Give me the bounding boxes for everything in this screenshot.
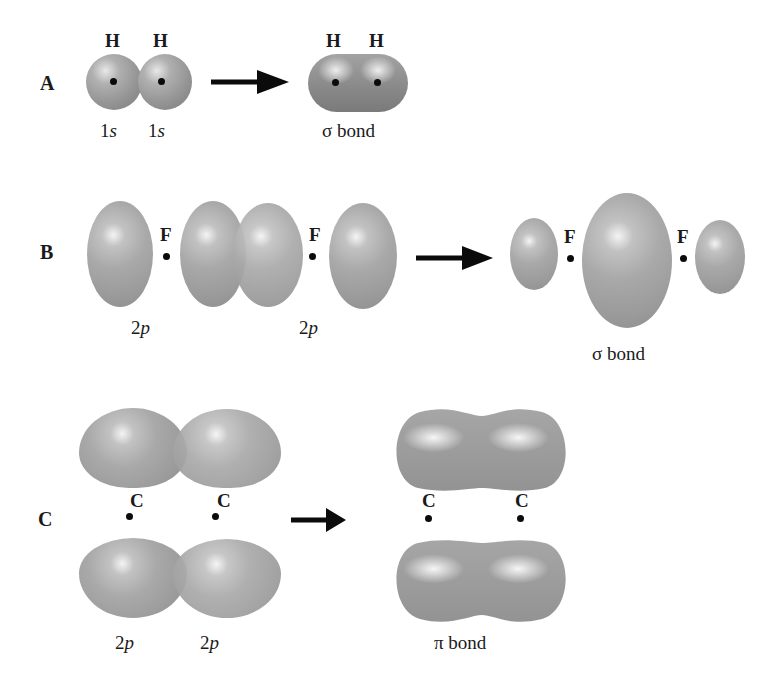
f2-sigma-outer-lobe [695,220,745,294]
nucleus-dot [110,78,117,85]
c-2p-lobe-top [79,408,187,488]
atom-label-c-4: C [515,490,529,512]
f-2p-lobe [233,203,303,307]
nucleus-dot [374,79,381,86]
orbital-label-2p-1: 2p [131,317,150,339]
atom-label-h-3: H [326,30,341,52]
panel-label-b: B [40,241,53,264]
f2-sigma-bond-lobe [582,193,672,328]
bond-label-sigma-a: σ bond [322,120,375,142]
atom-label-f-4: F [677,226,689,248]
nucleus-dot [163,253,170,260]
nucleus-dot [126,513,133,520]
panel-label-a: A [40,72,54,95]
nucleus-dot [680,255,687,262]
bond-label-pi: π bond [434,632,486,654]
nucleus-dot [332,79,339,86]
panel-label-c: C [38,508,52,531]
orbital-label-1s-1: 1s [100,120,117,142]
nucleus-dot [517,515,524,522]
h-1s-orbital-2 [138,54,192,110]
atom-label-h-4: H [369,30,384,52]
orbital-label-1s-2: 1s [148,120,165,142]
atom-label-c-3: C [422,490,436,512]
nucleus-dot [567,255,574,262]
nucleus-dot [309,253,316,260]
atom-label-f-1: F [160,224,172,246]
c-2p-lobe-bottom [79,538,187,618]
bond-label-sigma-b: σ bond [592,343,645,365]
nucleus-dot [158,78,165,85]
nucleus-dot [425,515,432,522]
atom-label-f-2: F [309,224,321,246]
orbital-label-2p-2: 2p [299,317,318,339]
atom-label-c-1: C [130,490,144,512]
atom-label-h-2: H [153,30,168,52]
atom-label-h-1: H [105,30,120,52]
atom-label-f-3: F [564,226,576,248]
orbital-label-2p-3: 2p [115,632,134,654]
h2-sigma-bond-orbital [308,54,408,112]
nucleus-dot [212,513,219,520]
f2-sigma-outer-lobe [510,218,558,290]
c-2p-lobe-bottom [173,539,281,618]
atom-label-c-2: C [217,490,231,512]
f-2p-lobe [87,201,153,307]
c-2p-lobe-top [173,409,281,488]
f-2p-lobe [329,203,397,309]
orbital-label-2p-4: 2p [200,632,219,654]
